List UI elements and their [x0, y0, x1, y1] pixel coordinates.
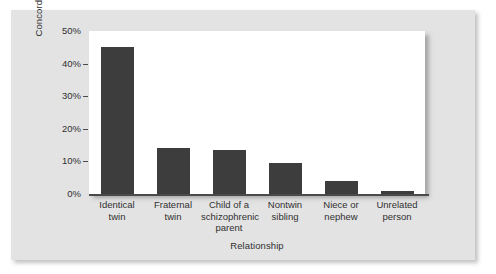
y-axis-tick-mark [83, 161, 88, 162]
y-axis-title: Concordance rate [33, 0, 47, 58]
y-axis-tick-mark [83, 64, 88, 65]
bar [325, 181, 358, 194]
y-axis-tick-label: 50% [47, 26, 81, 36]
x-axis-tick-label: Nontwin sibling [257, 199, 313, 222]
x-axis-line [89, 194, 429, 196]
y-axis-tick-label: 10% [47, 156, 81, 166]
y-axis-tick-mark [83, 96, 88, 97]
y-axis-tick-label: 30% [47, 91, 81, 101]
y-axis-tick-label: 0% [47, 189, 81, 199]
x-axis-tick-label: Child of a schizophrenic parent [201, 199, 257, 234]
bar [101, 47, 134, 194]
bars-layer [89, 31, 425, 194]
x-axis-tick-label: Fraternal twin [145, 199, 201, 222]
x-axis-tick-label: Niece or nephew [313, 199, 369, 222]
y-axis-tick-mark [83, 129, 88, 130]
x-axis-tick-label: Unrelated person [369, 199, 425, 222]
figure-root: Concordance rate 0%10%20%30%40%50% Ident… [0, 0, 496, 274]
bar-chart: Concordance rate 0%10%20%30%40%50% Ident… [11, 10, 475, 260]
x-axis-tick-label: Identical twin [89, 199, 145, 222]
y-axis-tick-label: 40% [47, 59, 81, 69]
x-axis-tick-labels: Identical twinFraternal twinChild of a s… [89, 199, 425, 243]
bar [213, 150, 246, 194]
x-axis-title: Relationship [89, 240, 425, 251]
figure-panel: Concordance rate 0%10%20%30%40%50% Ident… [11, 10, 475, 260]
bar [157, 148, 190, 194]
y-axis-tick-label: 20% [47, 124, 81, 134]
bar [269, 163, 302, 194]
